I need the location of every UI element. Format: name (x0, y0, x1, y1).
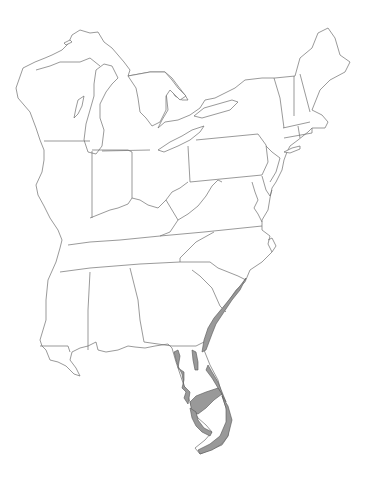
range-map (0, 0, 373, 480)
map-canvas (0, 0, 373, 480)
eastern-us-landmass (16, 28, 350, 454)
